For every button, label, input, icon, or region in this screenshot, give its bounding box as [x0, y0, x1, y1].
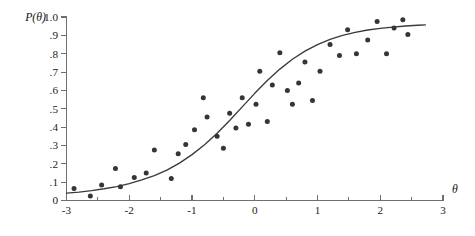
y-axis-title: P(θ): [24, 10, 46, 24]
x-tick-group: -3-2-10123: [62, 195, 446, 217]
y-tick-label: 1.0: [44, 11, 58, 23]
data-point: [405, 32, 410, 37]
scatter-plot-svg: 0.1.2.3.4.5.6.7.8.91.0 -3-2-10123 P(θ) θ: [0, 0, 475, 236]
data-point: [183, 142, 188, 147]
x-tick-label: 2: [377, 204, 383, 216]
y-tick-label: .3: [50, 139, 59, 151]
data-point: [240, 95, 245, 100]
x-tick-label: 3: [440, 204, 446, 216]
data-point: [337, 53, 342, 58]
x-tick-label: 1: [315, 204, 321, 216]
data-point: [302, 59, 307, 64]
data-point: [152, 148, 157, 153]
data-point: [265, 119, 270, 124]
data-point: [99, 182, 104, 187]
data-point: [270, 82, 275, 87]
data-point: [354, 51, 359, 56]
data-point: [113, 166, 118, 171]
y-tick-label: .5: [50, 103, 59, 115]
chart-figure: 0.1.2.3.4.5.6.7.8.91.0 -3-2-10123 P(θ) θ: [0, 0, 475, 236]
data-point: [201, 95, 206, 100]
data-point: [400, 17, 405, 22]
data-point: [328, 42, 333, 47]
data-point: [169, 176, 174, 181]
data-point: [132, 175, 137, 180]
data-point: [144, 170, 149, 175]
y-tick-group: 0.1.2.3.4.5.6.7.8.91.0: [44, 11, 66, 207]
data-point: [277, 50, 282, 55]
data-point: [72, 186, 77, 191]
y-tick-label: .2: [50, 158, 58, 170]
fitted-logistic-curve: [67, 25, 426, 193]
x-tick-label: -3: [62, 204, 72, 216]
data-point: [254, 102, 259, 107]
y-tick-label: .9: [50, 29, 59, 41]
data-point: [221, 146, 226, 151]
y-tick-label: .8: [50, 48, 59, 60]
y-tick-label: .4: [50, 121, 59, 133]
data-point: [192, 127, 197, 132]
x-tick-label: 0: [252, 204, 258, 216]
data-point: [118, 184, 123, 189]
data-point: [257, 69, 262, 74]
data-point: [365, 37, 370, 42]
data-point: [375, 19, 380, 24]
x-tick-label: -2: [125, 204, 134, 216]
y-tick-label: .7: [50, 66, 59, 78]
x-axis-title: θ: [452, 182, 458, 196]
data-point: [392, 26, 397, 31]
axes-group: [67, 17, 444, 201]
data-point: [246, 122, 251, 127]
data-point: [227, 111, 232, 116]
y-tick-label: .6: [50, 84, 59, 96]
data-point: [310, 98, 315, 103]
data-point: [296, 81, 301, 86]
x-tick-label: -1: [187, 204, 196, 216]
data-point: [176, 151, 181, 156]
data-point: [345, 27, 350, 32]
data-point: [285, 88, 290, 93]
data-point: [88, 193, 93, 198]
data-point: [215, 134, 220, 139]
data-point: [233, 126, 238, 131]
y-tick-label: .1: [50, 176, 58, 188]
y-tick-label: 0: [52, 194, 58, 206]
data-point: [384, 51, 389, 56]
data-point: [318, 69, 323, 74]
data-point: [205, 115, 210, 120]
data-point: [290, 102, 295, 107]
